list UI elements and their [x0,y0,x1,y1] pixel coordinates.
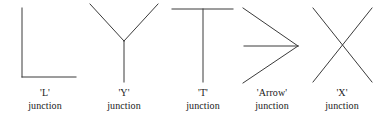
junction-label-name: 'X' [303,86,381,99]
y-junction-icon [83,0,165,90]
junction-caption: 'X'junction [303,86,381,112]
junction-label-word: junction [165,99,241,112]
junction-label-name: 'T' [165,86,241,99]
junction-label-word: junction [0,99,90,112]
junction-caption: 'Y'junction [83,86,165,112]
junction-label-word: junction [83,99,165,112]
junction-label-word: junction [238,99,306,112]
junction-stroke [124,4,158,41]
arrow-junction-icon [238,0,306,90]
t-junction-icon [165,0,241,90]
x-junction-icon [303,0,381,90]
junction-cell: 'T'junction [165,0,241,117]
junction-caption: 'T'junction [165,86,241,112]
junction-label-name: 'Y' [83,86,165,99]
junction-stroke [243,8,298,46]
junction-cell: 'X'junction [303,0,381,117]
junction-label-name: 'L' [0,86,90,99]
junction-stroke [90,4,124,41]
junction-cell: 'Arrow'junction [238,0,306,117]
junction-caption: 'Arrow'junction [238,86,306,112]
junction-stroke [243,46,298,83]
junction-cell: 'Y'junction [83,0,165,117]
junction-caption: 'L'junction [0,86,90,112]
junction-label-name: 'Arrow' [238,86,306,99]
junction-label-word: junction [303,99,381,112]
junction-types-figure: 'L'junction'Y'junction'T'junction'Arrow'… [0,0,386,117]
l-junction-icon [0,0,90,90]
junction-cell: 'L'junction [0,0,90,117]
